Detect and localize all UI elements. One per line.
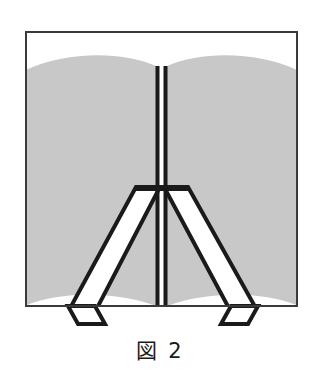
figure-caption: 図 2 [0, 336, 320, 366]
figure-container: 図 2 [0, 0, 320, 382]
figure-illustration [0, 0, 320, 382]
